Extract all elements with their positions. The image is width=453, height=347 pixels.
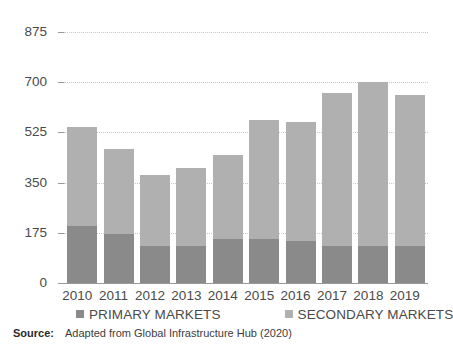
bar-segment-primary-2014[interactable] <box>213 239 243 283</box>
x-tick-label-2018: 2018 <box>348 286 388 305</box>
bars-layer <box>64 32 428 283</box>
source-label: Source: <box>13 327 54 339</box>
bar-segment-secondary-2016[interactable] <box>286 122 316 240</box>
bar-segment-primary-2017[interactable] <box>322 246 352 283</box>
x-axis-labels: 2010201120122013201420152016201720182019 <box>64 286 428 305</box>
legend-swatch-icon-secondary <box>285 310 293 318</box>
x-tick-label-2017: 2017 <box>312 286 352 305</box>
y-tick-label-0: 0 <box>0 276 47 290</box>
y-tick-label-525: 525 <box>0 126 47 140</box>
x-tick-label-2019: 2019 <box>385 286 425 305</box>
x-tick-label-2012: 2012 <box>130 286 170 305</box>
bar-segment-secondary-2018[interactable] <box>358 82 388 246</box>
bar-segment-primary-2018[interactable] <box>358 246 388 283</box>
bar-segment-primary-2010[interactable] <box>67 226 97 283</box>
legend-label-primary: PRIMARY MARKETS <box>89 307 221 322</box>
bar-segment-secondary-2017[interactable] <box>322 93 352 246</box>
x-tick-label-2015: 2015 <box>239 286 279 305</box>
legend-label-secondary: SECONDARY MARKETS <box>298 307 453 322</box>
y-tick-label-875: 875 <box>0 25 47 39</box>
bar-segment-primary-2019[interactable] <box>395 246 425 283</box>
bar-segment-secondary-2014[interactable] <box>213 155 243 239</box>
x-tick-label-2010: 2010 <box>57 286 97 305</box>
bar-segment-primary-2012[interactable] <box>140 246 170 283</box>
bar-segment-secondary-2013[interactable] <box>176 168 206 246</box>
legend-item-primary-markets[interactable]: PRIMARY MARKETS <box>76 307 221 322</box>
chart-legend: PRIMARY MARKETS SECONDARY MARKETS <box>64 305 428 323</box>
source-note: Source: Adapted from Global Infrastructu… <box>13 327 292 339</box>
bar-segment-secondary-2010[interactable] <box>67 127 97 225</box>
bar-segment-primary-2013[interactable] <box>176 246 206 283</box>
x-tick-label-2014: 2014 <box>203 286 243 305</box>
source-text: Adapted from Global Infrastructure Hub (… <box>65 327 292 339</box>
y-tick-label-350: 350 <box>0 176 47 190</box>
bar-segment-primary-2016[interactable] <box>286 241 316 283</box>
legend-swatch-icon-primary <box>76 310 84 318</box>
tick-mark-0 <box>58 283 64 284</box>
plot-area: 875 700 525 350 175 0 <box>64 32 428 283</box>
bar-segment-primary-2011[interactable] <box>104 234 134 283</box>
gridline-0 <box>64 283 428 284</box>
y-tick-label-175: 175 <box>0 226 47 240</box>
bar-segment-secondary-2015[interactable] <box>249 120 279 238</box>
legend-item-secondary-markets[interactable]: SECONDARY MARKETS <box>285 307 453 322</box>
bar-segment-secondary-2012[interactable] <box>140 175 170 246</box>
bar-segment-primary-2015[interactable] <box>249 239 279 283</box>
x-tick-label-2013: 2013 <box>166 286 206 305</box>
y-tick-label-700: 700 <box>0 75 47 89</box>
x-tick-label-2016: 2016 <box>276 286 316 305</box>
x-tick-label-2011: 2011 <box>94 286 134 305</box>
bar-segment-secondary-2011[interactable] <box>104 149 134 233</box>
bar-segment-secondary-2019[interactable] <box>395 95 425 246</box>
